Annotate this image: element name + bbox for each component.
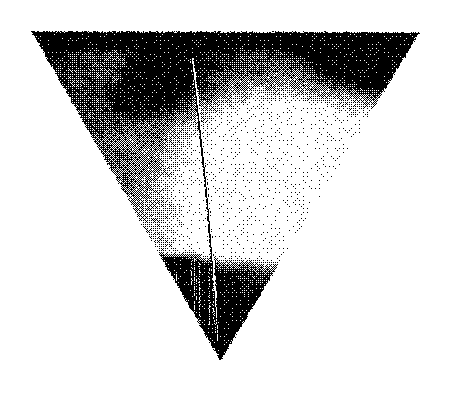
figure-stage: Black-and-white dithered photographic re… [0,0,451,395]
halftone-triangle-image [0,0,451,395]
